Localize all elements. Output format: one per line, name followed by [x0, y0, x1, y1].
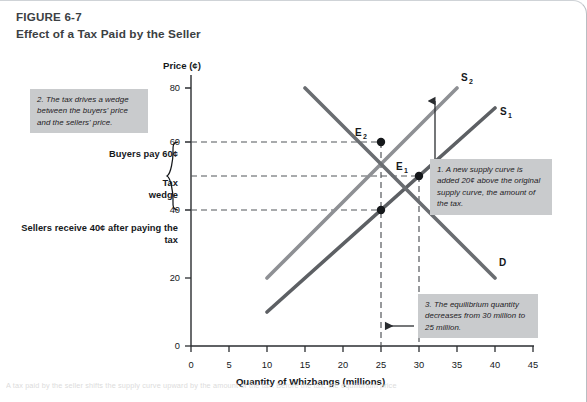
x-tick-25: 25 — [376, 360, 386, 370]
curve-label-s1: S 1 — [500, 106, 512, 119]
x-tick-20: 20 — [338, 360, 348, 370]
sellers-price-label: Sellers receive 40¢ after paying the tax — [12, 223, 178, 246]
tax-wedge-line-2: wedge — [78, 190, 178, 202]
page-bleed-text: A tax paid by the seller shifts the supp… — [6, 381, 581, 390]
equilibrium-old-label: E — [396, 161, 403, 172]
equilibrium-point-e2 — [377, 138, 385, 146]
supply-new-label: S — [461, 72, 468, 83]
supply-new-subscript: 2 — [469, 78, 473, 85]
tax-wedge-label: Tax wedge — [78, 178, 178, 201]
y-tick-20: 20 — [170, 273, 180, 283]
x-tick-45: 45 — [528, 360, 538, 370]
callout-equilibrium-quantity: 3. The equilibrium quantity decreases fr… — [418, 294, 538, 338]
equilibrium-new-label: E — [355, 127, 362, 138]
x-tick-35: 35 — [452, 360, 462, 370]
x-tick-0: 0 — [188, 360, 193, 370]
supply-curve-new — [267, 88, 457, 278]
x-tick-30: 30 — [414, 360, 424, 370]
label-e1: E 1 — [396, 161, 408, 174]
figure-container: FIGURE 6-7 Effect of a Tax Paid by the S… — [0, 0, 587, 402]
seller-receives-point — [377, 206, 385, 214]
callout-new-supply-curve: 1. A new supply curve is added 20¢ above… — [430, 159, 552, 215]
y-axis-ticks: 0 20 40 60 80 — [170, 83, 191, 351]
equilibrium-old-subscript: 1 — [404, 167, 408, 174]
x-tick-10: 10 — [262, 360, 272, 370]
supply-old-subscript: 1 — [508, 112, 512, 119]
callout-tax-wedge: 2. The tax drives a wedge between the bu… — [30, 89, 148, 133]
x-axis-ticks: 0 5 10 15 20 25 30 35 40 45 — [188, 346, 538, 370]
tax-wedge-line-1: Tax — [78, 178, 178, 190]
reference-lines — [191, 142, 419, 346]
curve-label-s2: S 2 — [461, 72, 473, 85]
buyers-price-label: Buyers pay 60¢ — [38, 149, 178, 161]
demand-label: D — [499, 257, 506, 268]
equilibrium-new-subscript: 2 — [363, 133, 367, 140]
equilibrium-point-e1 — [415, 172, 423, 180]
x-tick-40: 40 — [490, 360, 500, 370]
y-tick-0: 0 — [175, 341, 180, 351]
x-tick-5: 5 — [226, 360, 231, 370]
supply-old-label: S — [500, 106, 507, 117]
x-tick-15: 15 — [300, 360, 310, 370]
y-tick-80: 80 — [170, 83, 180, 93]
